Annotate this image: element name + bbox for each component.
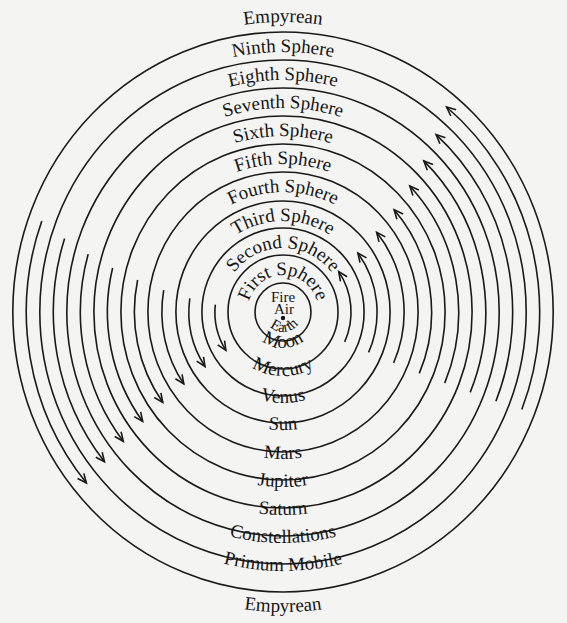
bottom-label-3: Venus bbox=[259, 383, 307, 407]
top-label-7: Fourth Sphere bbox=[224, 175, 343, 208]
bottom-label-10: Empyrean bbox=[244, 592, 323, 616]
bottom-label-8: Constellations bbox=[228, 520, 337, 547]
bottom-label-2: Mercury bbox=[250, 352, 316, 380]
bottom-label-6: Jupiter bbox=[257, 468, 310, 491]
bottom-label-4: Sun bbox=[268, 412, 299, 434]
earth-core: Fire Air bbox=[271, 289, 296, 320]
bottom-label-7: Saturn bbox=[258, 496, 309, 519]
arrow-up-right-3 bbox=[377, 232, 404, 363]
top-label-5: Sixth Sphere bbox=[230, 119, 335, 147]
arrow-up-right-1 bbox=[339, 272, 351, 342]
core-label-air: Air bbox=[274, 301, 294, 317]
arrow-down-left-8 bbox=[215, 305, 226, 351]
cosmos-diagram: EmpyreanNinth SphereEighth SphereSeventh… bbox=[0, 0, 567, 623]
top-label-3: Eighth Sphere bbox=[226, 63, 341, 91]
arrow-down-left-3 bbox=[80, 254, 123, 441]
bottom-label-5: Mars bbox=[263, 441, 303, 463]
top-label-1: Empyrean bbox=[242, 5, 324, 29]
top-label-2: Ninth Sphere bbox=[230, 35, 336, 61]
arrow-up-right-5 bbox=[410, 186, 459, 383]
arrow-up-right-7 bbox=[436, 135, 513, 402]
bottom-label-9: Primum Mobile bbox=[222, 547, 344, 575]
arrow-down-left-6 bbox=[162, 290, 184, 384]
